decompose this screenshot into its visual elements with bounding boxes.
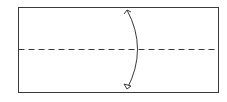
fold-diagram [0,0,227,102]
